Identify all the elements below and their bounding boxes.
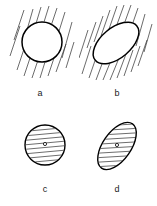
panel-d-label: d (114, 184, 119, 194)
panel-b-label: b (114, 88, 119, 98)
panel-a-label: a (37, 88, 42, 98)
panel-a-circle-outline (22, 22, 62, 62)
four-panel-inclusion-diagram: a (0, 0, 157, 206)
panel-c-center-marker (43, 142, 46, 145)
figure-container: a (0, 0, 157, 206)
panel-d-center-marker (115, 143, 118, 146)
panel-c-label: c (43, 184, 48, 194)
